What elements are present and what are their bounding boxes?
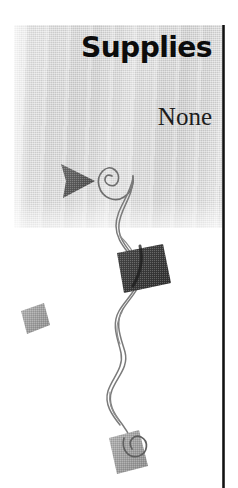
spiral-curl-bottom-icon xyxy=(123,436,146,456)
page-title: Supplies xyxy=(6,33,212,62)
diamond-bottom-gray-icon xyxy=(109,430,148,474)
diamond-small-gray-icon xyxy=(21,303,50,334)
diamond-dark-icon xyxy=(117,244,171,293)
supplies-value: None xyxy=(0,104,212,129)
right-vertical-rule xyxy=(222,25,225,488)
page-root: Supplies None xyxy=(0,0,238,488)
panel-bottom-fade xyxy=(14,202,224,228)
